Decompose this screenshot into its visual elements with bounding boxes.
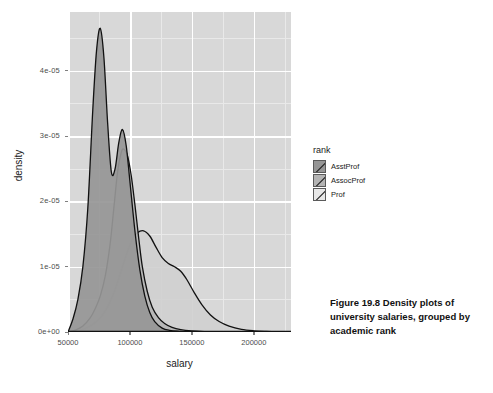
y-tick-label: 0e+00 [8, 327, 60, 336]
legend-item-assocprof[interactable]: AssocProf [313, 174, 393, 188]
x-tick-label: 50000 [38, 338, 98, 347]
legend-slash-icon [314, 160, 326, 173]
y-tick-label: 1e-05 [8, 262, 60, 271]
legend: rank AsstProfAssocProfProf [313, 146, 393, 202]
y-tick-label: 4e-05 [8, 66, 60, 75]
x-tick-mark [253, 332, 254, 335]
x-tick-label: 150000 [162, 338, 222, 347]
x-tick-label: 100000 [100, 338, 160, 347]
legend-label: AsstProf [331, 162, 359, 171]
y-tick-mark [65, 70, 68, 71]
figure-caption: Figure 19.8 Density plots of university … [330, 296, 480, 337]
legend-items: AsstProfAssocProfProf [313, 160, 393, 202]
legend-item-asstprof[interactable]: AsstProf [313, 160, 393, 174]
x-tick-mark [129, 332, 130, 335]
density-curves [68, 12, 291, 332]
legend-swatch-icon [313, 160, 326, 173]
density-plot: 0e+001e-052e-053e-054e-05 50000100000150… [0, 0, 310, 393]
legend-slash-icon [314, 188, 326, 201]
legend-slash-icon [314, 174, 326, 187]
legend-label: AssocProf [331, 176, 365, 185]
legend-label: Prof [331, 190, 345, 199]
y-tick-mark [65, 201, 68, 202]
x-tick-mark [68, 332, 69, 335]
y-tick-mark [65, 266, 68, 267]
y-axis-title: density [13, 126, 24, 206]
x-tick-mark [191, 332, 192, 335]
legend-item-prof[interactable]: Prof [313, 188, 393, 202]
y-tick-mark [65, 136, 68, 137]
legend-title: rank [313, 146, 393, 156]
plot-panel [68, 12, 291, 332]
legend-swatch-icon [313, 174, 326, 187]
x-axis-title: salary [68, 358, 291, 369]
figure-root: 0e+001e-052e-053e-054e-05 50000100000150… [0, 0, 493, 393]
legend-swatch-icon [313, 188, 326, 201]
x-tick-label: 200000 [224, 338, 284, 347]
